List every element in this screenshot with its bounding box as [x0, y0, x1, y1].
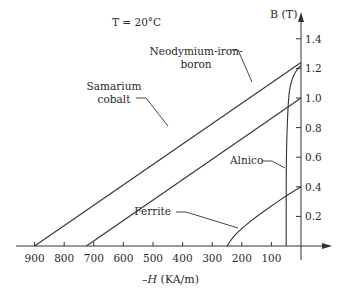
bh-demagnetization-chart: 900800700600500400300200100 0.20.40.60.8…	[0, 0, 356, 288]
ferrite-leader-line	[176, 212, 238, 228]
y-axis-ticks: 0.20.40.60.81.01.21.4	[296, 33, 322, 223]
x-tick-label: 700	[84, 252, 104, 264]
x-axis-arrow-icon	[322, 243, 332, 249]
samarium-cobalt-leader-line	[136, 98, 168, 126]
series-annotations: Neodymium-iron-boronSamariumcobaltAlnico…	[87, 45, 285, 228]
x-tick-label: 100	[261, 252, 281, 264]
x-tick-label: 400	[173, 252, 193, 264]
ferrite-curve	[227, 187, 301, 246]
y-tick-label: 0.6	[305, 151, 322, 163]
x-axis-ticks: 900800700600500400300200100	[25, 242, 282, 264]
samarium-cobalt-label: Samariumcobalt	[87, 80, 142, 105]
alnico-leader-line	[262, 161, 285, 168]
samarium-cobalt-curve	[86, 98, 301, 246]
y-axis-arrow-icon	[298, 12, 304, 22]
alnico-label: Alnico	[229, 154, 263, 166]
x-axis-title: –H (KA/m)	[142, 273, 199, 286]
alnico-curve	[286, 65, 301, 246]
x-tick-label: 500	[143, 252, 163, 264]
y-tick-label: 1.4	[305, 33, 322, 45]
y-tick-label: 1.0	[305, 92, 322, 104]
chart-title: T = 20°C	[112, 16, 161, 28]
neodymium-iron-boron-label: Neodymium-iron-boron	[150, 45, 243, 70]
y-tick-label: 1.2	[305, 62, 322, 74]
y-tick-label: 0.4	[305, 181, 322, 193]
x-tick-label: 800	[54, 252, 74, 264]
x-tick-label: 600	[113, 252, 133, 264]
x-tick-label: 300	[202, 252, 222, 264]
x-tick-label: 900	[25, 252, 45, 264]
ferrite-label: Ferrite	[134, 205, 171, 217]
y-tick-label: 0.8	[305, 122, 322, 134]
chart-canvas: 900800700600500400300200100 0.20.40.60.8…	[0, 0, 356, 288]
y-axis-title: B (T)	[270, 8, 298, 21]
x-tick-label: 200	[232, 252, 252, 264]
y-tick-label: 0.2	[305, 210, 322, 222]
